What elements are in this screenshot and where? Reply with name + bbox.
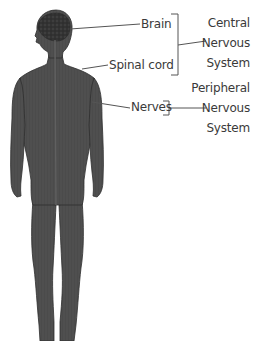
- cns-line-1: Central: [202, 13, 250, 33]
- nerves-label: Nerves: [131, 100, 172, 114]
- pns-line-2: Nervous: [191, 98, 250, 118]
- central-nervous-system-label: Central Nervous System: [202, 13, 250, 73]
- brain-label: Brain: [141, 17, 171, 31]
- cns-line-2: Nervous: [202, 33, 250, 53]
- pns-line-1: Peripheral: [191, 78, 250, 98]
- pns-line-3: System: [191, 118, 250, 138]
- spinal-cord-line: [55, 40, 56, 205]
- nervous-system-diagram: Brain Spinal cord Nerves Central Nervous…: [0, 0, 256, 341]
- cns-line-3: System: [202, 53, 250, 73]
- spinal-cord-label: Spinal cord: [109, 58, 174, 72]
- peripheral-nervous-system-label: Peripheral Nervous System: [191, 78, 250, 138]
- body-silhouette: [11, 10, 104, 341]
